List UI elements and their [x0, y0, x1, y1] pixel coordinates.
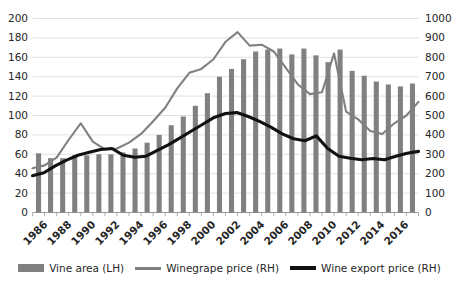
bar: [96, 154, 101, 212]
bar: [362, 76, 367, 213]
bar: [253, 51, 258, 212]
y-axis-right-tick: 200: [425, 168, 455, 179]
legend-label-wine-export-price: Wine export price (RH): [321, 262, 441, 274]
y-axis-left-tick: 200: [2, 13, 28, 24]
bar: [72, 155, 77, 212]
y-axis-left-tick: 120: [2, 91, 28, 102]
y-axis-left-tick: 160: [2, 52, 28, 63]
gridlines: [33, 19, 419, 213]
bar: [265, 50, 270, 213]
legend-line-swatch-icon: [135, 267, 161, 270]
y-axis-left-tick: 60: [2, 149, 28, 160]
bar: [169, 125, 174, 212]
y-axis-right-tick: 100: [425, 188, 455, 199]
legend-item-winegrape-price: Winegrape price (RH): [135, 262, 279, 274]
bar: [217, 77, 222, 213]
y-axis-left-tick: 0: [2, 207, 28, 218]
y-axis-right-tick: 900: [425, 32, 455, 43]
bar: [398, 86, 403, 212]
y-axis-right-tick: 700: [425, 71, 455, 82]
bar: [60, 158, 65, 212]
bar: [229, 69, 234, 213]
bar: [108, 154, 113, 212]
chart-legend: Vine area (LH) Winegrape price (RH) Wine…: [0, 258, 459, 278]
chart-container: 020406080100120140160180200 010020030040…: [0, 0, 459, 285]
bar: [350, 71, 355, 213]
y-axis-right-tick: 300: [425, 149, 455, 160]
x-axis-ticks: [33, 213, 419, 217]
y-axis-right-tick: 0: [425, 207, 455, 218]
y-axis-left-tick: 140: [2, 71, 28, 82]
bar: [36, 153, 41, 212]
y-axis-right-tick: 1000: [425, 13, 455, 24]
legend-item-vine-area: Vine area (LH): [18, 262, 124, 274]
y-axis-left-tick: 180: [2, 32, 28, 43]
y-axis-right-tick: 400: [425, 129, 455, 140]
bar: [313, 55, 318, 212]
y-axis-right-tick: 800: [425, 52, 455, 63]
bar: [193, 106, 198, 213]
bar: [84, 155, 89, 212]
bar: [386, 84, 391, 212]
bar: [205, 93, 210, 212]
legend-item-wine-export-price: Wine export price (RH): [290, 262, 441, 274]
bar-series-vine-area: [36, 49, 415, 213]
legend-label-winegrape-price: Winegrape price (RH): [166, 262, 279, 274]
y-axis-left-tick: 40: [2, 168, 28, 179]
legend-label-vine-area: Vine area (LH): [49, 262, 124, 274]
bar: [120, 152, 125, 212]
bar: [374, 82, 379, 213]
bar: [410, 83, 415, 212]
line-series-winegrape-price: [33, 32, 419, 168]
bar: [301, 49, 306, 213]
bar: [326, 62, 331, 212]
y-axis-left-tick: 100: [2, 110, 28, 121]
legend-bar-swatch-icon: [18, 264, 44, 272]
bar: [241, 59, 246, 212]
y-axis-left-tick: 80: [2, 129, 28, 140]
y-axis-right-tick: 500: [425, 110, 455, 121]
y-axis-right-tick: 600: [425, 91, 455, 102]
y-axis-left-tick: 20: [2, 188, 28, 199]
bar: [181, 116, 186, 212]
bar: [157, 135, 162, 213]
legend-line-swatch-icon: [290, 266, 316, 270]
